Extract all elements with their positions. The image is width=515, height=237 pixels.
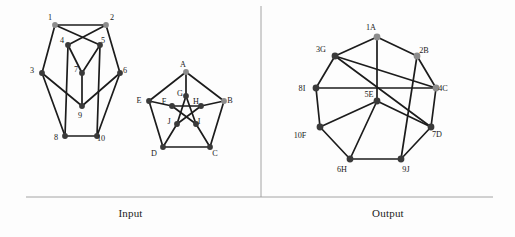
- graph-node-label-d: D: [151, 149, 157, 158]
- graph-node-label-5: 5: [101, 36, 105, 45]
- graph-edge: [201, 101, 224, 106]
- graph-edge: [106, 25, 120, 73]
- graph-edge: [377, 37, 417, 56]
- graph-edge: [335, 37, 377, 56]
- graph-node-d[interactable]: [160, 144, 166, 150]
- graph-node-2[interactable]: [103, 22, 109, 28]
- input-panel-caption: Input: [0, 207, 261, 219]
- graph-node-label-4c: 4C: [438, 84, 448, 93]
- graph-node-10f[interactable]: [317, 124, 324, 131]
- graph-edge: [316, 56, 335, 88]
- graph-node-label-10: 10: [97, 134, 105, 143]
- graph-edge: [163, 124, 177, 147]
- graph-node-label-8i: 8I: [299, 84, 306, 93]
- graph-edge: [149, 101, 172, 106]
- graph-node-4[interactable]: [65, 42, 71, 48]
- graph-edge: [65, 45, 68, 136]
- graph-node-label-h: H: [193, 97, 199, 106]
- graph-node-h[interactable]: [198, 103, 204, 109]
- graph-node-label-1a: 1A: [366, 23, 376, 32]
- figure-container: 12345678910ABCDEFGHIJ1A2B4C7D5E10F3G6H9J…: [0, 0, 515, 237]
- graph-node-label-a: A: [180, 60, 186, 69]
- graph-node-7[interactable]: [79, 70, 85, 76]
- graph-node-8i[interactable]: [313, 85, 320, 92]
- graph-node-label-7d: 7D: [432, 130, 442, 139]
- figure-canvas: 12345678910ABCDEFGHIJ1A2B4C7D5E10F3G6H9J…: [0, 0, 515, 237]
- graph-node-3g[interactable]: [332, 53, 339, 60]
- graph-edge: [82, 45, 100, 73]
- graph-edge: [320, 127, 350, 159]
- graph-edge: [335, 56, 436, 88]
- graph-edge: [335, 56, 431, 127]
- graph-node-label-9j: 9J: [402, 165, 410, 174]
- graph-node-9[interactable]: [79, 103, 85, 109]
- graph-node-label-e: E: [136, 96, 141, 105]
- graph-edge: [42, 25, 55, 73]
- graph-node-6h[interactable]: [347, 156, 354, 163]
- graph-node-g[interactable]: [183, 93, 189, 99]
- output-panel-caption: Output: [261, 207, 515, 219]
- graph-node-label-4: 4: [60, 36, 64, 45]
- graph-edge: [350, 101, 377, 159]
- graph-node-label-5e: 5E: [364, 90, 373, 99]
- graph-node-label-1: 1: [48, 13, 52, 22]
- graph-node-1[interactable]: [52, 22, 58, 28]
- graph-edge: [320, 101, 377, 127]
- graph-node-label-f: F: [162, 97, 167, 106]
- graph-edge: [196, 124, 210, 147]
- graph-node-label-6: 6: [123, 66, 127, 75]
- graph-node-5e[interactable]: [374, 98, 381, 105]
- graph-edge: [431, 88, 436, 127]
- graph-node-label-10f: 10F: [294, 131, 307, 140]
- dividers-layer: [26, 6, 493, 197]
- graph-node-label-6h: 6H: [337, 165, 347, 174]
- graph-node-label-2: 2: [110, 13, 114, 22]
- graph-node-label-8: 8: [54, 133, 58, 142]
- graph-node-label-3g: 3G: [316, 45, 326, 54]
- graph-node-label-c: C: [212, 149, 218, 158]
- graph-node-label-b: B: [227, 96, 233, 105]
- graph-node-label-g: G: [177, 89, 183, 98]
- graph-edge: [210, 101, 224, 147]
- graph-node-j[interactable]: [174, 121, 180, 127]
- graph-node-label-9: 9: [78, 111, 82, 120]
- graph-node-8[interactable]: [62, 133, 68, 139]
- graph-node-label-3: 3: [30, 66, 34, 75]
- graph-edge: [149, 101, 163, 147]
- graph-node-label-7: 7: [74, 65, 78, 74]
- graph-node-label-j: J: [167, 117, 171, 126]
- graph-node-a[interactable]: [183, 69, 189, 75]
- graph-node-3[interactable]: [39, 70, 45, 76]
- graph-edge: [377, 101, 431, 127]
- graph-node-b[interactable]: [221, 98, 227, 104]
- graph-node-label-i: I: [198, 117, 201, 126]
- graph-edge: [186, 72, 224, 101]
- graph-edge: [316, 88, 320, 127]
- graph-node-9j[interactable]: [398, 156, 405, 163]
- graph-node-f[interactable]: [169, 103, 175, 109]
- graph-node-e[interactable]: [146, 98, 152, 104]
- graph-node-1a[interactable]: [374, 34, 381, 41]
- graph-node-label-2b: 2B: [419, 46, 429, 55]
